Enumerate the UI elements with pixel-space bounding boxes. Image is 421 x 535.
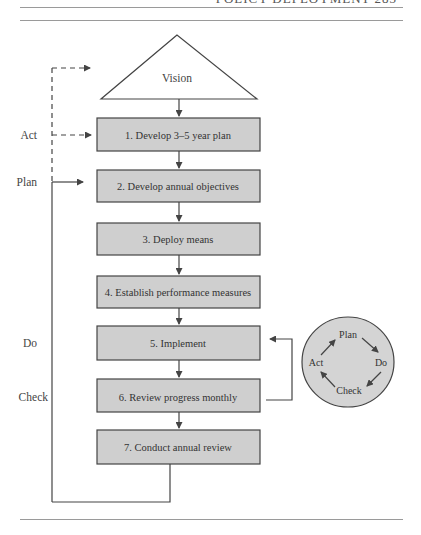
- step-label: 3. Deploy means: [143, 234, 214, 245]
- step-label: 7. Conduct annual review: [124, 442, 232, 453]
- step-box-6: 6. Review progress monthly: [97, 379, 260, 412]
- step-box-1: 1. Develop 3–5 year plan: [97, 118, 260, 151]
- step-box-2: 2. Develop annual objectives: [97, 170, 260, 202]
- step-label: 4. Establish performance measures: [105, 287, 251, 298]
- step-label: 2. Develop annual objectives: [117, 181, 239, 192]
- pdca-plan: Plan: [339, 329, 357, 340]
- policy-deployment-diagram: Vision 1. Develop 3–5 year plan 2. Devel…: [0, 0, 421, 535]
- step-label: 1. Develop 3–5 year plan: [125, 130, 232, 141]
- pdca-cycle: Plan Do Check Act: [302, 317, 394, 407]
- vision-triangle: Vision: [101, 35, 257, 99]
- step-label: 6. Review progress monthly: [119, 392, 238, 403]
- right-feedback-loop: [266, 339, 292, 400]
- side-label-plan: Plan: [17, 176, 38, 188]
- vision-label: Vision: [162, 72, 192, 84]
- step-box-7: 7. Conduct annual review: [97, 430, 260, 464]
- step-box-5: 5. Implement: [97, 326, 260, 360]
- pdca-check: Check: [336, 385, 362, 396]
- side-label-do: Do: [23, 337, 37, 349]
- pdca-do: Do: [375, 357, 387, 368]
- step-box-4: 4. Establish performance measures: [97, 276, 260, 308]
- pdca-act: Act: [309, 357, 324, 368]
- step-label: 5. Implement: [150, 338, 206, 349]
- step-box-3: 3. Deploy means: [97, 223, 260, 255]
- side-label-check: Check: [19, 391, 49, 403]
- side-label-act: Act: [20, 129, 37, 141]
